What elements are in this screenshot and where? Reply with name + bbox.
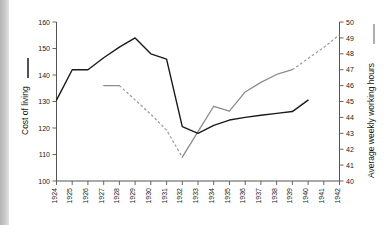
x-axis-ticklabel: 1934 bbox=[208, 188, 215, 204]
x-axis: 1924 1925 1926 1927 1928 1929 1930 1931 … bbox=[51, 181, 341, 204]
x-axis-ticklabel: 1942 bbox=[334, 188, 341, 204]
plot-series bbox=[57, 35, 340, 157]
chart-figure: 100 110 120 130 140 150 160 Cost of livi… bbox=[9, 0, 388, 225]
right-axis-ticklabel: 48 bbox=[346, 50, 354, 57]
x-axis-ticklabel: 1925 bbox=[66, 188, 73, 204]
x-axis-ticklabel: 1940 bbox=[302, 188, 309, 204]
left-axis-ticklabel: 100 bbox=[38, 178, 50, 185]
right-axis: 40 41 42 43 44 45 46 47 48 49 50 Average… bbox=[340, 19, 377, 185]
x-axis-ticklabel: 1938 bbox=[271, 188, 278, 204]
x-axis-ticklabel: 1933 bbox=[192, 188, 199, 204]
left-axis-ticklabel: 140 bbox=[38, 72, 50, 79]
series-working-hours-dashed bbox=[119, 86, 182, 158]
x-axis-ticklabel: 1941 bbox=[318, 188, 325, 204]
left-axis-ticklabel: 130 bbox=[38, 98, 50, 105]
right-axis-ticklabel: 45 bbox=[346, 98, 354, 105]
right-axis-ticklabel: 49 bbox=[346, 35, 354, 42]
left-axis-title: Cost of living bbox=[20, 86, 30, 135]
left-edge-strip bbox=[0, 0, 9, 225]
x-axis-ticklabel: 1931 bbox=[161, 188, 168, 204]
right-axis-ticklabel: 50 bbox=[346, 19, 354, 26]
right-axis-ticklabel: 41 bbox=[346, 162, 354, 169]
right-axis-ticklabel: 44 bbox=[346, 114, 354, 121]
left-axis-ticklabel: 110 bbox=[39, 151, 50, 158]
x-axis-ticklabel: 1926 bbox=[82, 188, 89, 204]
right-axis-title: Average weekly working hours bbox=[366, 63, 376, 178]
right-axis-ticklabel: 40 bbox=[346, 178, 354, 185]
series-working-hours-dashed bbox=[292, 35, 339, 70]
x-axis-ticklabel: 1927 bbox=[98, 188, 105, 204]
right-axis-ticklabel: 43 bbox=[346, 130, 354, 137]
right-axis-ticklabel: 46 bbox=[346, 82, 354, 89]
dual-axis-line-chart: 100 110 120 130 140 150 160 Cost of livi… bbox=[9, 0, 388, 225]
x-axis-ticklabel: 1937 bbox=[255, 188, 262, 204]
left-axis-ticklabel: 160 bbox=[38, 19, 50, 26]
x-axis-ticklabel: 1930 bbox=[145, 188, 152, 204]
series-cost-of-living bbox=[57, 38, 309, 133]
x-axis-ticklabel: 1936 bbox=[239, 188, 246, 204]
left-axis-ticklabel: 120 bbox=[38, 125, 50, 132]
x-axis-ticklabel: 1935 bbox=[224, 188, 231, 204]
left-axis: 100 110 120 130 140 150 160 Cost of livi… bbox=[20, 19, 57, 185]
right-axis-ticklabel: 42 bbox=[346, 146, 354, 153]
x-axis-ticklabel: 1929 bbox=[129, 188, 136, 204]
x-axis-ticklabel: 1924 bbox=[51, 188, 58, 204]
x-axis-ticklabel: 1939 bbox=[286, 188, 293, 204]
right-axis-ticklabel: 47 bbox=[346, 66, 354, 73]
x-axis-ticklabel: 1932 bbox=[176, 188, 183, 204]
left-axis-ticklabel: 150 bbox=[38, 45, 50, 52]
x-axis-ticklabel: 1928 bbox=[113, 188, 120, 204]
